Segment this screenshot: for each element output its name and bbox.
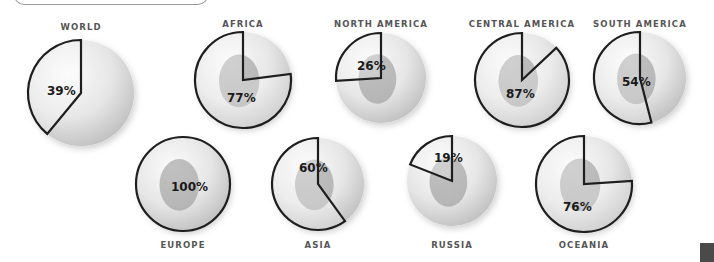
percent-label: 39% <box>47 84 76 98</box>
region-russia: 19%RUSSIA <box>407 136 497 250</box>
percent-label: 77% <box>227 91 256 105</box>
region-label: ASIA <box>305 240 332 250</box>
region-label: WORLD <box>60 22 101 32</box>
region-africa: 77%AFRICA <box>195 19 291 128</box>
region-label: EUROPE <box>160 240 205 250</box>
regional-pie-chart: 39%WORLD77%AFRICA26%NORTH AMERICA87%CENT… <box>0 0 714 262</box>
region-europe: 100%EUROPE <box>136 137 230 250</box>
percent-label: 19% <box>434 151 463 165</box>
percent-label: 60% <box>299 161 328 175</box>
region-label: AFRICA <box>222 19 264 29</box>
region-label: NORTH AMERICA <box>334 19 428 29</box>
region-south-america: 54%SOUTH AMERICA <box>593 19 687 124</box>
percent-label: 54% <box>622 75 651 89</box>
percent-label: 100% <box>171 180 208 194</box>
region-label: OCEANIA <box>559 240 609 250</box>
region-label: SOUTH AMERICA <box>593 19 687 29</box>
pie-wedge <box>336 33 381 81</box>
corner-block <box>700 243 714 262</box>
percent-label: 87% <box>506 87 535 101</box>
percent-label: 26% <box>357 59 386 73</box>
region-asia: 60%ASIA <box>272 138 364 250</box>
region-central-america: 87%CENTRAL AMERICA <box>469 19 575 127</box>
region-oceania: 76%OCEANIA <box>536 136 632 250</box>
region-world: 39%WORLD <box>28 22 134 146</box>
percent-label: 76% <box>563 200 592 214</box>
region-label: RUSSIA <box>431 240 473 250</box>
region-label: CENTRAL AMERICA <box>469 19 575 29</box>
region-north-america: 26%NORTH AMERICA <box>334 19 428 123</box>
